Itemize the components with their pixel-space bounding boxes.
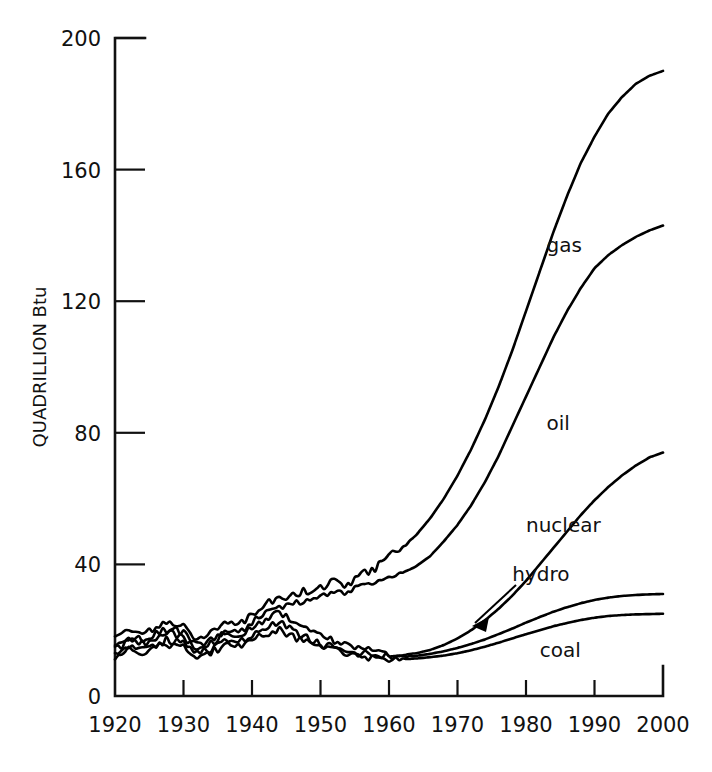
x-tick-label-1990: 1990 [568,713,621,737]
series-line-gas [115,71,663,640]
y-axis-title: QUADRILLION Btu [29,287,50,448]
x-tick-label-1930: 1930 [157,713,210,737]
series-label-nuclear: nuclear [526,513,601,537]
y-tick-label-120: 120 [61,290,101,314]
y-axis-title-group: QUADRILLION Btu [29,287,50,448]
x-tick-label-1940: 1940 [225,713,278,737]
y-tick-label-160: 160 [61,159,101,183]
y-axis-ticks: 04080120160200 [61,27,145,709]
hydro-annotation-group [472,585,516,632]
x-tick-label-1920: 1920 [88,713,141,737]
x-tick-label-1980: 1980 [499,713,552,737]
series-label-coal: coal [540,638,581,662]
y-tick-label-200: 200 [61,27,101,51]
series-labels-group: gasoilnuclearhydrocoal [512,233,601,662]
y-tick-label-40: 40 [74,553,101,577]
x-axis-ticks: 192019301940195019601970198019902000 [88,680,689,737]
energy-consumption-line-chart: QUADRILLION Btu 04080120160200 192019301… [0,0,712,772]
hydro-arrow-icon [475,585,516,623]
series-label-oil: oil [547,411,570,435]
y-tick-label-80: 80 [74,422,101,446]
axis-frame [115,38,663,696]
x-tick-label-2000: 2000 [636,713,689,737]
series-label-gas: gas [547,233,582,257]
x-tick-label-1950: 1950 [294,713,347,737]
series-lines-group [115,71,663,662]
y-tick-label-0: 0 [88,685,101,709]
x-tick-label-1970: 1970 [431,713,484,737]
x-tick-label-1960: 1960 [362,713,415,737]
series-line-oil [115,226,663,647]
chart-figure: QUADRILLION Btu 04080120160200 192019301… [0,0,712,772]
series-label-hydro: hydro [512,562,569,586]
